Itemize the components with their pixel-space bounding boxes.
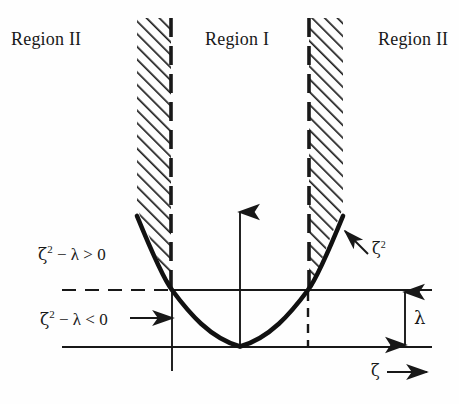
curve-label-symbol: ζ — [372, 239, 381, 258]
figure-container: Region II Region I Region II ζ2 − λ > 0 … — [0, 0, 459, 404]
formula-positive-symbol: ζ — [38, 244, 47, 264]
figure-canvas — [0, 0, 459, 404]
curve-label-exponent: 2 — [381, 239, 386, 250]
formula-positive: ζ2 − λ > 0 — [38, 244, 106, 263]
region-label-left: Region II — [11, 30, 81, 48]
region-label-center: Region I — [205, 30, 269, 48]
zeta-axis-label: ζ — [371, 363, 380, 379]
formula-negative-rest: − λ < 0 — [55, 310, 108, 329]
formula-negative-symbol: ζ — [40, 309, 49, 329]
lambda-label: λ — [414, 309, 425, 327]
formula-negative: ζ2 − λ < 0 — [40, 309, 108, 328]
curve-pointer-arrow — [345, 231, 368, 254]
formula-positive-rest: − λ > 0 — [53, 245, 106, 264]
region-label-right: Region II — [378, 30, 448, 48]
curve-label-zeta-squared: ζ2 — [372, 240, 386, 257]
